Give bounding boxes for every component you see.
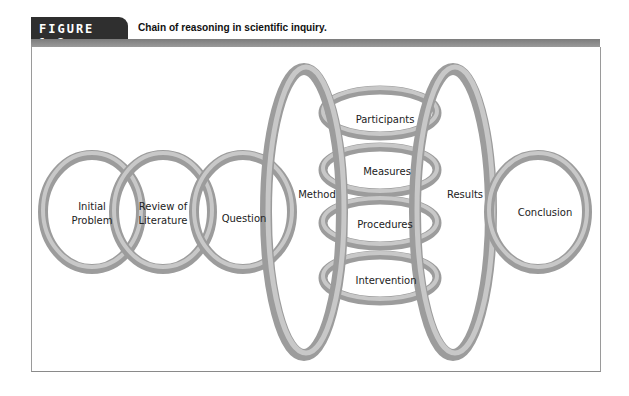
label-initial-problem-line2: Problem [72, 215, 113, 226]
label-procedures: Procedures [357, 219, 412, 230]
label-measures: Measures [363, 166, 411, 177]
label-question: Question [222, 213, 267, 224]
label-results: Results [447, 189, 483, 200]
label-conclusion: Conclusion [518, 207, 573, 218]
label-review-line1: Review of [139, 201, 188, 212]
label-participants: Participants [356, 114, 415, 125]
label-intervention: Intervention [355, 275, 416, 286]
chain-of-reasoning-diagram: Initial Problem Review of Literature Que… [0, 0, 629, 396]
label-review-line2: Literature [139, 215, 188, 226]
label-initial-problem-line1: Initial [78, 201, 106, 212]
label-method: Method [298, 189, 336, 200]
